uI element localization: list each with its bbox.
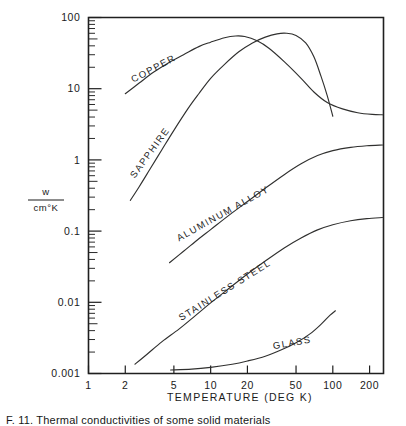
x-tick-label: 100	[323, 379, 342, 391]
y-tick-label: 0.01	[58, 296, 81, 308]
x-axis-title: TEMPERATURE (DEG K)	[167, 391, 313, 403]
y-axis-title-denominator: cm°K	[34, 202, 59, 213]
x-tick-label: 20	[241, 379, 254, 391]
y-tick-label: 100	[61, 11, 80, 23]
y-tick-label: 0.001	[51, 367, 80, 379]
x-tick-label: 2	[122, 379, 128, 391]
x-tick-label: 200	[360, 379, 379, 391]
figure-caption: F. 11. Thermal conductivities of some so…	[6, 414, 271, 426]
x-tick-label: 10	[204, 379, 217, 391]
chart-background	[0, 0, 406, 426]
y-tick-label: 0.1	[64, 225, 80, 237]
y-axis-title-numerator: w	[41, 186, 49, 197]
x-tick-label: 5	[171, 379, 177, 391]
figure-container: COPPERSAPPHIREALUMINUM ALLOYSTAINLESS ST…	[0, 0, 406, 426]
y-tick-label: 1	[74, 154, 80, 166]
y-tick-label: 10	[68, 82, 81, 94]
thermal-conductivity-chart: COPPERSAPPHIREALUMINUM ALLOYSTAINLESS ST…	[0, 0, 406, 426]
x-tick-label: 50	[290, 379, 303, 391]
x-tick-label: 1	[85, 379, 91, 391]
